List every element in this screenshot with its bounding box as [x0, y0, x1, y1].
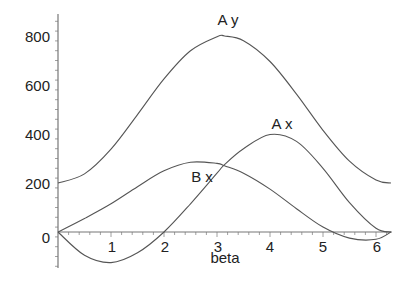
- y-tick-0: 0: [42, 229, 50, 246]
- series-b-x-line: [58, 162, 391, 240]
- x-tick-4: 4: [266, 238, 274, 255]
- x-tick-2: 2: [161, 238, 169, 255]
- x-tick-5: 5: [319, 238, 327, 255]
- x-tick-1: 1: [108, 238, 116, 255]
- x-tick-6: 6: [373, 238, 381, 255]
- chart: 800 600 400 200 0 1 2 3 4 5 6 beta A y A…: [0, 0, 411, 286]
- series-a-y-line: [58, 35, 391, 183]
- y-tick-600: 600: [25, 77, 50, 94]
- y-tick-200: 200: [25, 175, 50, 192]
- y-tick-800: 800: [25, 28, 50, 45]
- label-a-x: A x: [272, 115, 293, 132]
- label-a-y: A y: [218, 11, 239, 28]
- y-tick-400: 400: [25, 126, 50, 143]
- label-b-x: B x: [191, 168, 213, 185]
- x-axis-label: beta: [210, 249, 240, 266]
